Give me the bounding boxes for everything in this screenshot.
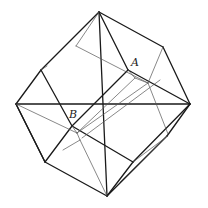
label-a: A <box>130 56 139 69</box>
label-b: B <box>68 108 77 121</box>
front-edges <box>16 12 190 196</box>
polyhedron-diagram: A B <box>0 0 208 208</box>
